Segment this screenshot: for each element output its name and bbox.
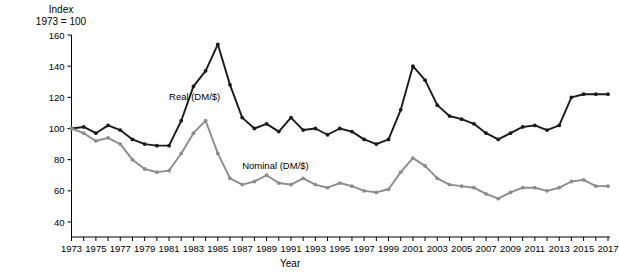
data-point: [545, 128, 549, 132]
data-point: [240, 116, 244, 120]
data-point: [570, 95, 574, 99]
x-tick-label: 2003: [427, 243, 448, 254]
data-point: [131, 138, 135, 142]
series-label-nominal: Nominal (DM/$): [242, 160, 309, 171]
data-point: [582, 92, 586, 96]
data-point: [448, 183, 452, 187]
data-point: [289, 116, 293, 120]
x-tick-label: 1981: [158, 243, 179, 254]
x-tick-label: 1985: [207, 243, 228, 254]
x-tick-label: 1987: [232, 243, 253, 254]
x-tick-label: 1999: [378, 243, 399, 254]
data-point: [313, 127, 317, 131]
data-point: [509, 131, 513, 135]
data-point: [240, 183, 244, 187]
data-point: [167, 144, 171, 148]
data-point: [143, 167, 147, 171]
x-tick-label: 2007: [475, 243, 496, 254]
x-tick-label: 1991: [280, 243, 301, 254]
data-point: [411, 156, 415, 160]
data-point: [106, 123, 110, 127]
data-point: [204, 69, 208, 73]
data-point: [70, 127, 74, 131]
data-point: [265, 122, 269, 126]
x-tick-label: 1989: [256, 243, 277, 254]
y-tick-label: 80: [54, 154, 65, 165]
x-tick-label: 1979: [134, 243, 155, 254]
data-point: [326, 186, 330, 190]
data-point: [484, 131, 488, 135]
data-point: [313, 183, 317, 187]
data-point: [484, 192, 488, 196]
x-tick-label: 1983: [183, 243, 204, 254]
data-point: [253, 127, 257, 131]
x-tick-label: 1975: [85, 243, 106, 254]
data-point: [496, 138, 500, 142]
data-point: [155, 144, 159, 148]
y-tick-label: 140: [49, 61, 65, 72]
data-point: [106, 136, 110, 140]
data-point: [509, 190, 513, 194]
y-tick-label: 160: [49, 30, 65, 41]
series-annotations: Real (DM/$)Nominal (DM/$): [169, 91, 309, 171]
data-point: [606, 92, 610, 96]
data-point: [435, 103, 439, 107]
data-point: [460, 184, 464, 188]
data-point: [179, 119, 183, 123]
data-point: [277, 130, 281, 134]
x-tick-label: 1995: [329, 243, 350, 254]
x-tick-label: 2011: [525, 243, 545, 254]
data-point: [387, 187, 391, 191]
data-point: [472, 122, 476, 126]
x-tick-label: 1997: [354, 243, 375, 254]
data-point: [399, 170, 403, 174]
data-point: [411, 64, 415, 68]
data-point: [277, 181, 281, 185]
data-point: [192, 131, 196, 135]
data-point: [216, 42, 220, 46]
data-point: [289, 183, 293, 187]
data-point: [82, 131, 86, 135]
x-tick-label: 1993: [305, 243, 326, 254]
data-point: [94, 131, 98, 135]
y-tick-label: 40: [54, 217, 65, 228]
data-point: [216, 152, 220, 156]
data-point: [606, 184, 610, 188]
data-point: [143, 142, 147, 146]
series-nominal: [70, 119, 610, 201]
x-tick-label: 2017: [597, 243, 618, 254]
data-point: [448, 114, 452, 118]
data-point: [192, 85, 196, 89]
data-point: [155, 170, 159, 174]
data-point: [350, 130, 354, 134]
data-point: [374, 190, 378, 194]
y-tick-label: 120: [49, 92, 65, 103]
data-point: [423, 78, 427, 82]
data-point: [423, 164, 427, 168]
data-point: [228, 83, 232, 87]
x-tick-label: 1977: [110, 243, 131, 254]
data-point: [545, 189, 549, 193]
series-label-real: Real (DM/$): [169, 91, 220, 102]
data-point: [374, 142, 378, 146]
data-point: [582, 178, 586, 182]
data-point: [594, 92, 598, 96]
x-tick-label: 2009: [500, 243, 521, 254]
data-point: [265, 173, 269, 177]
y-tick-label: 60: [54, 185, 65, 196]
line-chart-plot: 406080100120140160 197319751977197919811…: [0, 0, 619, 277]
data-point: [362, 189, 366, 193]
x-tick-label: 2005: [451, 243, 472, 254]
data-point: [557, 186, 561, 190]
series-real: [70, 42, 610, 147]
data-point: [350, 184, 354, 188]
data-point: [533, 186, 537, 190]
data-point: [362, 138, 366, 142]
data-point: [94, 139, 98, 143]
x-tick-label: 2001: [402, 243, 423, 254]
x-tick-label: 1973: [61, 243, 82, 254]
data-point: [131, 158, 135, 162]
x-tick-label: 2013: [549, 243, 570, 254]
data-point: [435, 176, 439, 180]
data-point: [326, 133, 330, 137]
